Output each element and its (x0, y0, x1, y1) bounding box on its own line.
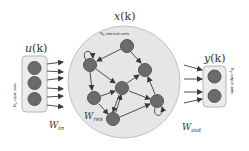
output-units-label: Ny output units (229, 68, 235, 94)
reservoir-node (88, 92, 101, 105)
input-node (28, 77, 41, 90)
w-out-label: Wout (182, 122, 202, 133)
reservoir-node (121, 40, 134, 53)
input-label: u(k) (25, 42, 47, 55)
w-in-label: Win (49, 120, 64, 131)
output-node (208, 90, 221, 103)
reservoir-diagram: u(k) x(k) y(k) Nx internal units Nu inpu… (0, 0, 249, 151)
output-node (208, 70, 221, 83)
reservoir-node (107, 113, 120, 126)
input-units-label: Nu input units (12, 83, 18, 107)
reservoir-node (116, 82, 129, 95)
input-node (28, 62, 41, 75)
reservoir-node (139, 64, 152, 77)
input-node (28, 93, 41, 106)
output-weight-arrows (184, 65, 202, 103)
reservoir-node (151, 95, 164, 108)
output-label: y(k) (203, 52, 225, 65)
input-weight-arrows (47, 62, 63, 107)
reservoir-node (84, 59, 97, 72)
reservoir-label: x(k) (114, 10, 135, 23)
